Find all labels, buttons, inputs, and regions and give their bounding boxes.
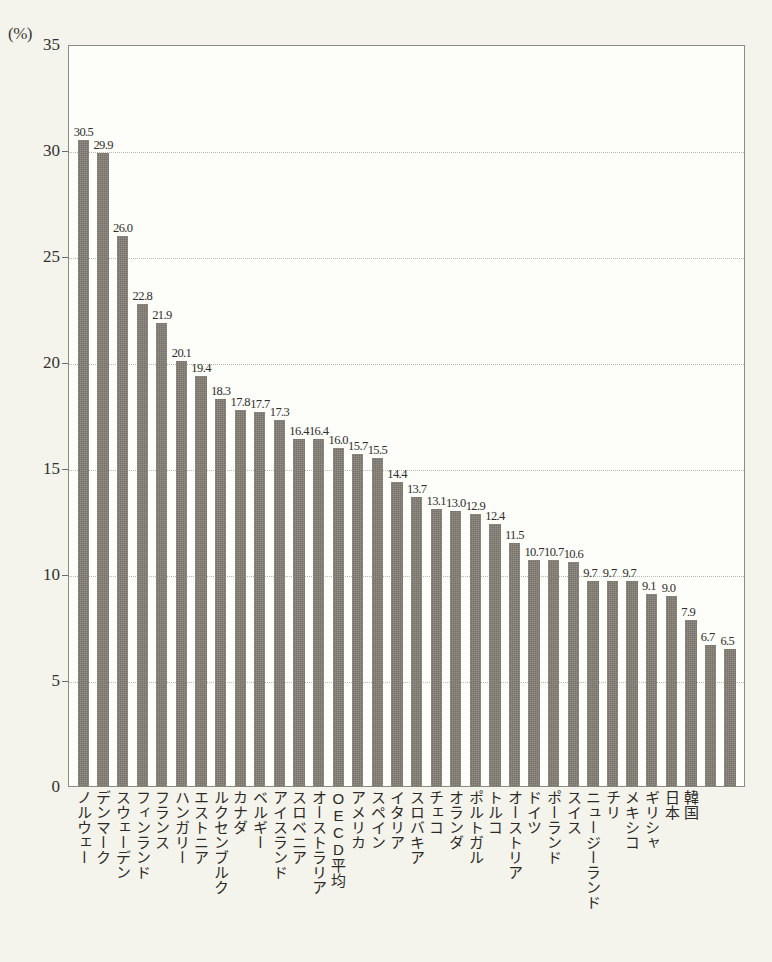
bar-rect (685, 620, 696, 787)
category-label: 日本 (664, 790, 679, 820)
bar-value-label: 17.8 (231, 396, 250, 409)
bar (646, 45, 657, 787)
category-label: ニュージーランド (585, 790, 600, 910)
y-tick-label: 25 (8, 247, 60, 267)
category-labels: ノルウェーデンマークスウェーデンフィンランドフランスハンガリーエストニアルクセン… (68, 790, 745, 958)
bar-rect (254, 412, 265, 787)
bar-rect (137, 304, 148, 787)
bar-value-label: 11.5 (505, 529, 524, 542)
bar-value-label: 16.4 (309, 425, 328, 438)
bar-value-label: 10.7 (544, 546, 563, 559)
bar-rect (215, 399, 226, 787)
bar (372, 45, 383, 787)
bar (489, 45, 500, 787)
bar-rect (587, 581, 598, 787)
category-label: ドイツ (527, 790, 542, 835)
category-label: フランス (154, 790, 169, 850)
bar (137, 45, 148, 787)
category-label: アイスランド (272, 790, 287, 880)
bar (313, 45, 324, 787)
bar-value-label: 12.9 (466, 500, 485, 513)
category-label: オーストラリア (311, 790, 326, 895)
bar-rect (705, 645, 716, 787)
bar-rect (626, 581, 637, 787)
bar-rect (646, 594, 657, 787)
y-tick-label: 0 (8, 777, 60, 797)
bar-rect (333, 448, 344, 787)
bar-rect (235, 410, 246, 787)
category-label: オランダ (448, 790, 463, 850)
bar-value-label: 13.7 (407, 483, 426, 496)
bar-value-label: 29.9 (93, 139, 112, 152)
bar-rect (195, 376, 206, 787)
bar-value-label: 13.1 (427, 495, 446, 508)
bar-value-label: 15.5 (368, 444, 387, 457)
category-label: スロバキア (409, 790, 424, 865)
bar-value-label: 9.7 (622, 567, 636, 580)
y-tick-label: 30 (8, 141, 60, 161)
bar (626, 45, 637, 787)
bar-value-label: 22.8 (133, 290, 152, 303)
bars-layer: 30.529.926.022.821.920.119.418.317.817.7… (68, 45, 745, 787)
bar (450, 45, 461, 787)
bar-value-label: 6.7 (701, 631, 715, 644)
bar (431, 45, 442, 787)
bar-value-label: 12.4 (485, 510, 504, 523)
bar (352, 45, 363, 787)
bar-rect (568, 562, 579, 787)
category-label: デンマーク (96, 790, 111, 865)
bar (568, 45, 579, 787)
bar-rect (548, 560, 559, 787)
category-label: チリ (605, 790, 620, 820)
bar (685, 45, 696, 787)
category-label: フィンランド (135, 790, 150, 880)
y-tick-label: 20 (8, 353, 60, 373)
category-label: スペイン (370, 790, 385, 850)
bar-rect (78, 140, 89, 787)
bar (705, 45, 716, 787)
category-label: ハンガリー (174, 790, 189, 865)
bar-chart: (%) 05101520253035 30.529.926.022.821.92… (0, 0, 772, 962)
bar-rect (372, 458, 383, 787)
category-label: チェコ (429, 790, 444, 835)
bar (607, 45, 618, 787)
y-tick-label: 10 (8, 565, 60, 585)
bar (528, 45, 539, 787)
bar-value-label: 14.4 (387, 468, 406, 481)
bar-rect (470, 514, 481, 787)
bar-value-label: 9.0 (662, 582, 676, 595)
bar-rect (666, 596, 677, 787)
bar (548, 45, 559, 787)
bar (156, 45, 167, 787)
bar-rect (176, 361, 187, 787)
bar-value-label: 9.7 (603, 567, 617, 580)
bar-value-label: 19.4 (191, 362, 210, 375)
category-label: トルコ (487, 790, 502, 835)
bar-value-label: 6.5 (720, 635, 734, 648)
bar-value-label: 30.5 (74, 126, 93, 139)
bar-rect (528, 560, 539, 787)
bar-value-label: 10.7 (524, 546, 543, 559)
category-label: メキシコ (625, 790, 640, 850)
category-label: 韓国 (683, 790, 698, 820)
bar-rect (274, 420, 285, 787)
category-label: ルクセンブルク (213, 790, 228, 895)
bar (333, 45, 344, 787)
bar-value-label: 26.0 (113, 222, 132, 235)
category-label: オーストリア (507, 790, 522, 880)
y-tick-label: 35 (8, 35, 60, 55)
bar-rect (411, 497, 422, 787)
bar (391, 45, 402, 787)
bar-rect (293, 439, 304, 787)
category-label: ポーランド (546, 790, 561, 865)
y-tick-label: 5 (8, 671, 60, 691)
bar (235, 45, 246, 787)
bar-value-label: 20.1 (172, 347, 191, 360)
category-label: ベルギー (252, 790, 267, 850)
bar-rect (431, 509, 442, 787)
bar-value-label: 9.7 (583, 567, 597, 580)
bar (666, 45, 677, 787)
bar-value-label: 18.3 (211, 385, 230, 398)
bar-rect (607, 581, 618, 787)
bar-rect (489, 524, 500, 787)
